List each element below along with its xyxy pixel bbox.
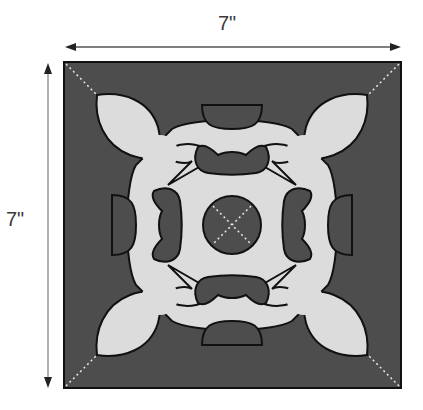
width-dimension-arrow — [65, 43, 401, 51]
quilt-block-diagram — [0, 0, 423, 410]
height-dimension-arrow — [44, 63, 52, 388]
applique-motif — [96, 94, 367, 356]
